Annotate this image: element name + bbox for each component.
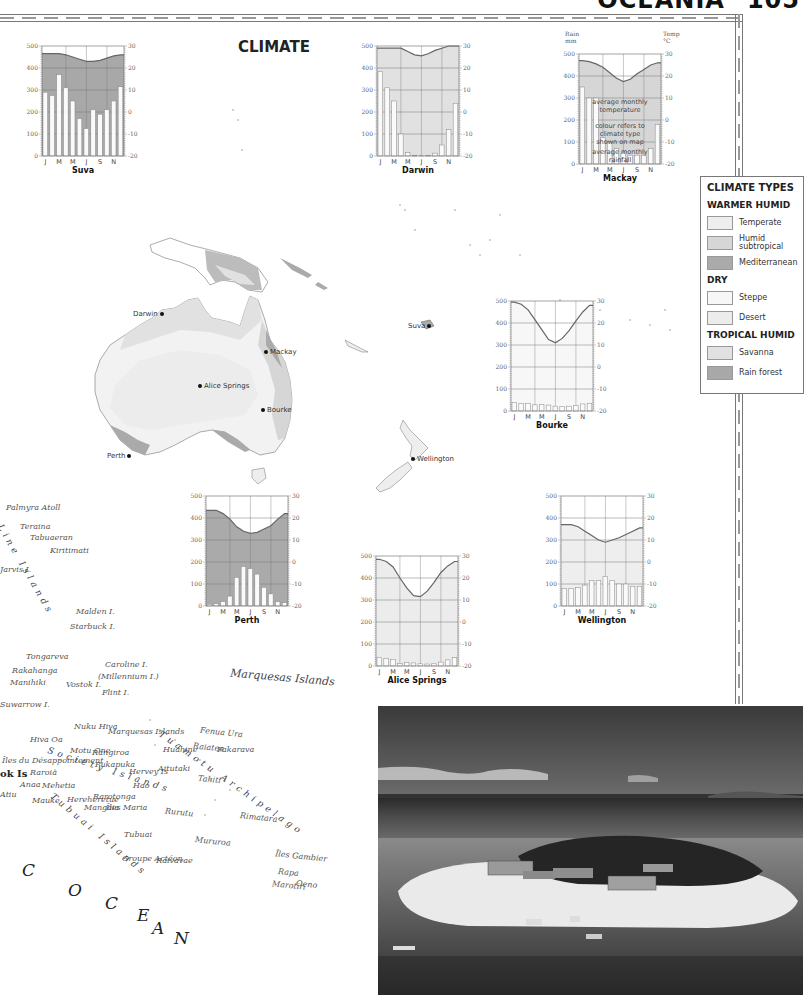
svg-text:100: 100	[564, 138, 576, 145]
svg-text:M: M	[593, 166, 599, 174]
svg-text:-10: -10	[647, 580, 657, 587]
svg-text:S: S	[98, 158, 102, 166]
svg-text:S: S	[617, 608, 621, 616]
svg-text:200: 200	[564, 116, 576, 123]
svg-text:-10: -10	[292, 580, 302, 587]
svg-text:-20: -20	[462, 662, 472, 669]
island-label: Tubuai	[124, 830, 152, 839]
svg-text:0: 0	[198, 602, 202, 609]
rain-axis-title: Rainmm	[565, 30, 591, 44]
island-label: Starbuck I.	[70, 622, 115, 631]
svg-text:500: 500	[564, 50, 576, 57]
legend-label: Humid subtropical	[739, 235, 797, 251]
svg-text:200: 200	[362, 108, 374, 115]
svg-text:climate type: climate type	[600, 130, 641, 138]
svg-text:300: 300	[27, 86, 39, 93]
svg-text:0: 0	[462, 618, 466, 625]
svg-text:400: 400	[191, 514, 203, 521]
city-label-alice-springs: Alice Springs	[196, 382, 249, 390]
svg-text:200: 200	[27, 108, 39, 115]
svg-text:J: J	[562, 608, 565, 616]
chart-city-title: Mackay	[565, 174, 675, 183]
chart-city-title: Perth	[192, 616, 302, 625]
island-label: Caroline I.	[105, 660, 148, 669]
svg-text:S: S	[433, 158, 437, 166]
svg-text:-10: -10	[128, 130, 138, 137]
legend-group-title: TROPICAL HUMID	[707, 330, 797, 340]
island-label: Mehetia	[42, 781, 75, 790]
svg-text:N: N	[445, 668, 450, 676]
svg-text:20: 20	[292, 514, 300, 521]
legend-item: Mediterranean	[707, 253, 797, 272]
legend-label: Desert	[739, 314, 766, 322]
svg-text:0: 0	[34, 152, 38, 159]
svg-text:300: 300	[564, 94, 576, 101]
svg-text:J: J	[84, 158, 87, 166]
island-label: Marquesas Islands	[108, 727, 184, 736]
svg-text:-20: -20	[463, 152, 473, 159]
climate-chart-perth: 0100200300400500-20-100102030JMMJSNPerth	[192, 490, 302, 640]
island-label: Rarotonga	[93, 792, 136, 801]
city-dot-icon	[198, 384, 202, 388]
island-label: Îles Maria	[106, 803, 147, 812]
cook-islands-label: ok Is	[0, 768, 27, 779]
island-label: Tongareva	[26, 652, 68, 661]
city-dot-icon	[411, 457, 415, 461]
legend-swatch	[707, 291, 733, 305]
city-dot-icon	[427, 324, 431, 328]
svg-text:20: 20	[665, 72, 673, 79]
ocean-label-letter: C	[22, 860, 35, 880]
legend-group-title: DRY	[707, 275, 797, 285]
svg-text:0: 0	[369, 152, 373, 159]
svg-text:-20: -20	[292, 602, 302, 609]
svg-text:M: M	[56, 158, 62, 166]
svg-text:200: 200	[361, 618, 373, 625]
legend-group-title: WARMER HUMID	[707, 200, 797, 210]
svg-text:temperature: temperature	[600, 106, 641, 114]
ocean-label-letter: A	[152, 918, 164, 938]
island-photo	[378, 706, 803, 995]
svg-text:-20: -20	[128, 152, 138, 159]
svg-text:J: J	[377, 668, 380, 676]
svg-text:0: 0	[553, 602, 557, 609]
island-label: Suwarrow I.	[0, 700, 50, 709]
svg-text:300: 300	[546, 536, 558, 543]
chart-city-title: Wellington	[547, 616, 657, 625]
svg-text:20: 20	[462, 574, 470, 581]
svg-text:J: J	[553, 413, 556, 421]
svg-text:30: 30	[597, 297, 605, 304]
svg-text:10: 10	[463, 86, 471, 93]
svg-text:rainfall: rainfall	[609, 156, 632, 164]
climate-chart-wellington: 0100200300400500-20-100102030JMMJSNWelli…	[547, 490, 657, 640]
island-label: Kiritimati	[50, 546, 89, 555]
climate-types-legend: CLIMATE TYPES WARMER HUMIDTemperateHumid…	[700, 176, 804, 394]
svg-text:J: J	[378, 158, 381, 166]
legend-title: CLIMATE TYPES	[707, 182, 797, 193]
legend-label: Savanna	[739, 349, 774, 357]
svg-text:S: S	[567, 413, 571, 421]
svg-text:400: 400	[361, 574, 373, 581]
svg-text:M: M	[391, 158, 397, 166]
chart-city-title: Darwin	[363, 166, 473, 175]
chart-city-title: Bourke	[497, 421, 607, 430]
legend-swatch	[707, 311, 733, 325]
svg-text:400: 400	[27, 64, 39, 71]
legend-swatch	[707, 346, 733, 360]
island-photo-image	[378, 706, 803, 995]
svg-text:-10: -10	[462, 640, 472, 647]
svg-text:100: 100	[496, 385, 508, 392]
new-zealand	[400, 420, 428, 460]
svg-text:M: M	[390, 668, 396, 676]
svg-text:500: 500	[546, 492, 558, 499]
island-label: Hiva Oa	[30, 735, 63, 744]
svg-text:10: 10	[597, 341, 605, 348]
svg-text:500: 500	[361, 552, 373, 559]
island-label: Rakahanga	[12, 666, 58, 675]
city-label-darwin: Darwin	[133, 310, 166, 318]
climate-chart-mackay: 0100200300400500-20-100102030JMMJSNavera…	[565, 48, 675, 198]
svg-text:M: M	[405, 158, 411, 166]
svg-text:M: M	[70, 158, 76, 166]
svg-text:400: 400	[564, 72, 576, 79]
svg-text:0: 0	[292, 558, 296, 565]
svg-text:M: M	[607, 166, 613, 174]
